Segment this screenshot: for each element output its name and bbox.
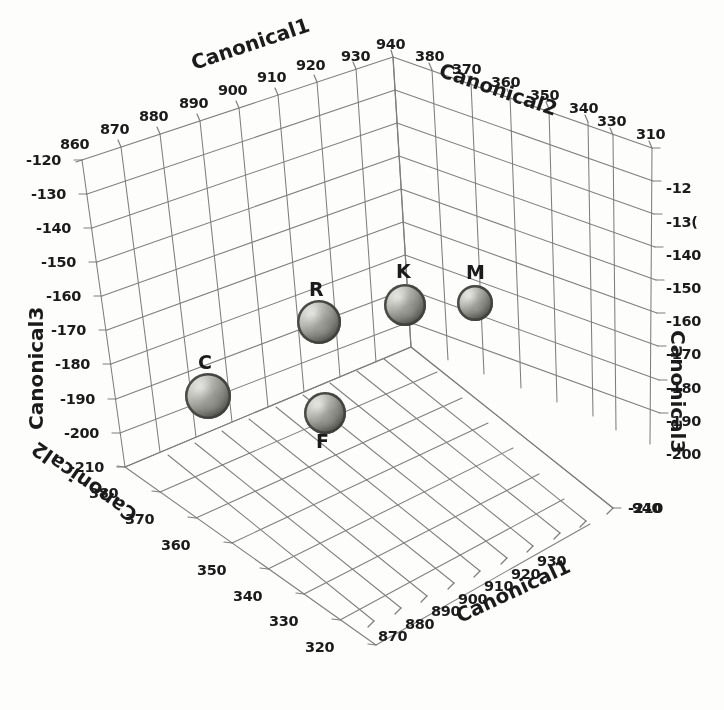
data-point-label-C: C bbox=[198, 351, 212, 373]
tick-c3-left--180: -180 bbox=[55, 356, 90, 372]
tick-c3-left--120: -120 bbox=[26, 152, 61, 168]
tick-c3-right--120: -12 bbox=[666, 180, 691, 196]
tick-c3-right--130: -13( bbox=[666, 214, 698, 230]
tick-marks bbox=[74, 50, 668, 645]
tick-c1-bottom-880: 880 bbox=[405, 616, 434, 632]
axis-title-canonical3-left: Canonical3 bbox=[24, 307, 48, 430]
tick-c2-bottom-350: 350 bbox=[197, 562, 226, 578]
tick-c3-left--160: -160 bbox=[46, 288, 81, 304]
tick-c1-top-860: 860 bbox=[60, 136, 89, 152]
data-point-label-K: K bbox=[396, 260, 411, 282]
tick-c3-left--150: -150 bbox=[41, 254, 76, 270]
tick-c3-right--150: -150 bbox=[666, 280, 701, 296]
tick-c3-left--130: -130 bbox=[31, 186, 66, 202]
tick-c3-left--140: -140 bbox=[36, 220, 71, 236]
tick-c3-left--200: -200 bbox=[64, 425, 99, 441]
data-point-label-M: M bbox=[466, 261, 485, 283]
tick-c3-left--170: -170 bbox=[51, 322, 86, 338]
plot-wireframe bbox=[0, 0, 724, 710]
tick-c2-top-310: 310 bbox=[636, 126, 665, 142]
tick-c1-top-920: 920 bbox=[296, 57, 325, 73]
tick-c2-bottom-330: 330 bbox=[269, 613, 298, 629]
scatter3d-plot: 860 870 880 890 900 910 920 930 940 Cano… bbox=[0, 0, 724, 710]
tick-c2-top-330: 330 bbox=[597, 113, 626, 129]
tick-c2-bottom-340: 340 bbox=[233, 588, 262, 604]
tick-c1-bottom-870: 870 bbox=[378, 628, 407, 644]
tick-c1-top-890: 890 bbox=[179, 95, 208, 111]
data-point-M[interactable] bbox=[457, 285, 493, 321]
tick-c2-bottom-360: 360 bbox=[161, 537, 190, 553]
wall-left-horizontals bbox=[82, 57, 411, 467]
data-point-K[interactable] bbox=[384, 284, 426, 326]
data-point-label-R: R bbox=[309, 278, 324, 300]
tick-c1-bottom-940: 940 bbox=[632, 500, 661, 516]
tick-c1-top-910: 910 bbox=[257, 69, 286, 85]
data-point-R[interactable] bbox=[297, 300, 341, 344]
axis-title-canonical3-right: Canonical3 bbox=[666, 330, 690, 453]
tick-c1-top-900: 900 bbox=[218, 82, 247, 98]
tick-c1-top-870: 870 bbox=[100, 121, 129, 137]
tick-c1-top-940: 940 bbox=[376, 36, 405, 52]
tick-c1-top-930: 930 bbox=[341, 48, 370, 64]
tick-c2-top-340: 340 bbox=[569, 100, 598, 116]
data-point-C[interactable] bbox=[185, 373, 231, 419]
tick-c3-left--190: -190 bbox=[60, 391, 95, 407]
tick-c2-top-380: 380 bbox=[415, 48, 444, 64]
tick-c2-bottom-320: 320 bbox=[305, 639, 334, 655]
tick-c3-right--140: -140 bbox=[666, 247, 701, 263]
data-point-F[interactable] bbox=[304, 392, 346, 434]
wall-left-verticals bbox=[82, 57, 411, 467]
tick-c1-top-880: 880 bbox=[139, 108, 168, 124]
data-point-label-F: F bbox=[316, 430, 329, 452]
tick-c3-right--160: -160 bbox=[666, 313, 701, 329]
